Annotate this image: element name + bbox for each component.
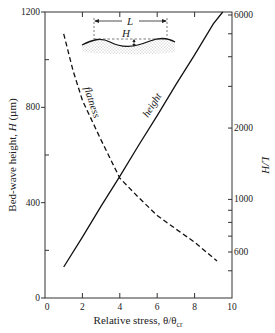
bed-wave-chart: 024681004008001200600100020006000 L H he… bbox=[0, 0, 275, 333]
tick-label: 10 bbox=[227, 302, 237, 312]
tick-label: 6000 bbox=[234, 10, 253, 20]
axis-ticks bbox=[41, 12, 232, 298]
y2-axis-title: L/H bbox=[260, 155, 272, 174]
tick-label: 0 bbox=[45, 302, 50, 312]
tick-label: 1200 bbox=[21, 7, 40, 17]
bed-wave-inset: L H bbox=[82, 15, 175, 54]
tick-label: 800 bbox=[26, 102, 41, 112]
arrow-right-icon bbox=[162, 19, 167, 23]
inset-label-H: H bbox=[121, 27, 131, 39]
tick-label: 2000 bbox=[234, 123, 253, 133]
inset-label-L: L bbox=[126, 15, 133, 27]
tick-label: 2 bbox=[80, 302, 85, 312]
tick-label: 6 bbox=[155, 302, 160, 312]
tick-label: 1000 bbox=[234, 194, 253, 204]
tick-label: 8 bbox=[192, 302, 197, 312]
flatness-series-line bbox=[64, 34, 217, 261]
tick-label: 600 bbox=[234, 247, 249, 257]
tick-label: 0 bbox=[35, 293, 40, 303]
plot-frame bbox=[45, 12, 232, 298]
arrow-left-icon bbox=[94, 19, 99, 23]
curve-label-height: height bbox=[140, 90, 164, 119]
y-axis-title: Bed-wave height, H (µm) bbox=[6, 98, 19, 212]
curve-label-flatness: flatness bbox=[82, 85, 102, 119]
tick-label: 400 bbox=[26, 198, 41, 208]
x-axis-title: Relative stress, θ/θcr bbox=[94, 314, 183, 329]
tick-label: 4 bbox=[117, 302, 122, 312]
